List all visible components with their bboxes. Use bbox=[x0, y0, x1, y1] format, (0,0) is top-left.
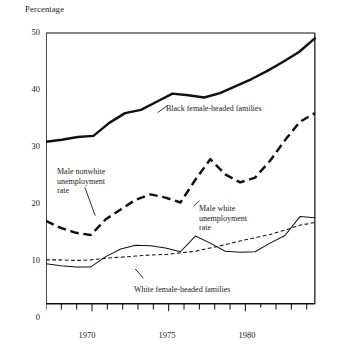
annotation-leader-lines bbox=[85, 106, 200, 278]
axis-lines bbox=[46, 33, 315, 304]
series-white-female-headed-families bbox=[46, 223, 315, 261]
y-axis-title: Percentage bbox=[25, 4, 64, 14]
series-male-nonwhite-unemployment-rate bbox=[46, 113, 315, 235]
series-black-female-headed-families bbox=[46, 38, 315, 141]
y-tick-label-50: 50 bbox=[18, 27, 40, 37]
series-male-white-unemployment-rate bbox=[46, 217, 315, 267]
plot-area bbox=[46, 32, 330, 318]
x-tick-label-1970: 1970 bbox=[67, 330, 107, 340]
x-tick-label-1980: 1980 bbox=[227, 330, 267, 340]
y-tick-label-40: 40 bbox=[18, 84, 40, 94]
y-tick-label-20: 20 bbox=[18, 198, 40, 208]
chart-figure: Percentage 50 40 30 20 10 0 1970 1975 19… bbox=[0, 0, 346, 354]
y-tick-label-30: 30 bbox=[18, 141, 40, 151]
y-tick-label-0: 0 bbox=[18, 312, 40, 322]
y-tick-label-10: 10 bbox=[18, 255, 40, 265]
x-tick-label-1975: 1975 bbox=[147, 330, 187, 340]
x-axis-ticks bbox=[46, 304, 307, 312]
